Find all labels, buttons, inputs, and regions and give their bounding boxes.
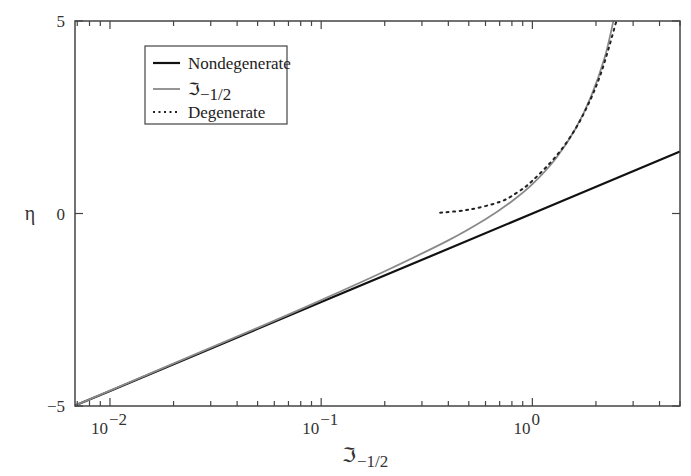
series-degenerate xyxy=(440,21,616,213)
legend-label-degenerate: Degenerate xyxy=(188,103,265,122)
legend-label-fermi-integral: ℑ xyxy=(188,80,200,99)
y-tick-label: −5 xyxy=(47,397,65,416)
axis-tick-labels: 10−210−1100−505 xyxy=(47,12,540,438)
x-tick-label-exponent: −1 xyxy=(320,410,338,429)
y-axis-title: η xyxy=(25,202,35,225)
x-axis-title: ℑ xyxy=(342,444,356,466)
x-axis-title-main: ℑ xyxy=(342,444,356,466)
y-tick-label: 5 xyxy=(57,12,66,31)
x-axis-title-subscript: −1/2 xyxy=(357,452,388,471)
chart: 10−210−1100−505 η ℑ −1/2 Nondegenerate ℑ… xyxy=(0,0,691,476)
x-tick-label-exponent: 0 xyxy=(531,410,540,429)
x-tick-label: 10 xyxy=(513,419,530,438)
y-tick-label: 0 xyxy=(57,205,66,224)
legend-label-nondegenerate: Nondegenerate xyxy=(188,54,291,73)
x-tick-label-exponent: −2 xyxy=(109,410,127,429)
x-tick-label: 10 xyxy=(302,419,319,438)
x-tick-label: 10 xyxy=(91,419,108,438)
legend-label-fermi-integral-subscript: −1/2 xyxy=(200,85,231,104)
legend: Nondegenerate ℑ −1/2 Degenerate xyxy=(145,46,291,124)
